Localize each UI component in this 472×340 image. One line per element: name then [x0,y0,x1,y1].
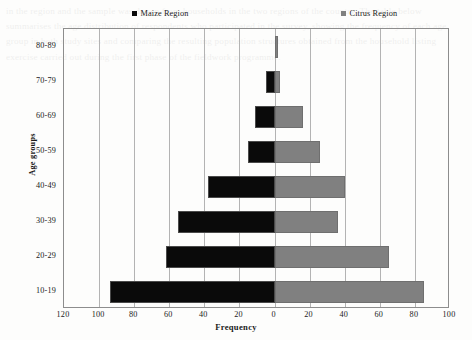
chart-row [64,239,448,274]
legend-swatch-maize-icon [132,11,137,16]
y-tick-10-19: 10-19 [16,286,56,295]
bar-maize-70-79 [266,71,275,93]
y-tick-30-39: 30-39 [16,216,56,225]
legend-item-citrus-region: Citrus Region [341,9,397,18]
bar-maize-10-19 [110,281,275,303]
x-tick-5: 20 [218,310,258,319]
x-tick-1: 100 [78,310,118,319]
population-pyramid-chart: Maize Region Citrus Region 1201008060402… [0,0,472,340]
y-tick-20-29: 20-29 [16,251,56,260]
bar-citrus-20-29 [275,246,389,268]
bar-citrus-30-39 [275,211,338,233]
plot-area [63,28,449,308]
chart-row [64,274,448,309]
legend-item-maize-region: Maize Region [132,9,188,18]
bar-citrus-70-79 [275,71,280,93]
x-tick-10: 80 [394,310,434,319]
bar-maize-30-39 [178,211,275,233]
bar-maize-60-69 [255,106,274,128]
x-tick-7: 20 [289,310,329,319]
chart-row [64,134,448,169]
x-tick-9: 60 [359,310,399,319]
x-tick-8: 40 [324,310,364,319]
x-tick-0: 120 [43,310,83,319]
bar-citrus-10-19 [275,281,424,303]
bar-citrus-50-59 [275,141,321,163]
bar-maize-50-59 [248,141,274,163]
bar-citrus-80-89 [275,36,279,58]
x-tick-11: 100 [429,310,469,319]
x-tick-6: 0 [254,310,294,319]
legend-label-citrus-region: Citrus Region [350,9,398,18]
chart-row [64,169,448,204]
legend-swatch-citrus-icon [341,11,346,16]
x-axis-title: Frequency [0,322,472,332]
legend-label-maize-region: Maize Region [141,9,189,18]
chart-legend: Maize Region Citrus Region [0,9,472,23]
chart-row [64,29,448,64]
bar-maize-20-29 [166,246,275,268]
bar-citrus-40-49 [275,176,345,198]
x-tick-4: 40 [183,310,223,319]
bar-maize-40-49 [208,176,275,198]
y-tick-80-89: 80-89 [16,41,56,50]
bar-citrus-60-69 [275,106,303,128]
x-tick-2: 80 [113,310,153,319]
chart-row [64,204,448,239]
x-tick-3: 60 [148,310,188,319]
y-axis-title: Age groups [28,115,37,195]
chart-row [64,64,448,99]
chart-row [64,99,448,134]
y-tick-70-79: 70-79 [16,76,56,85]
